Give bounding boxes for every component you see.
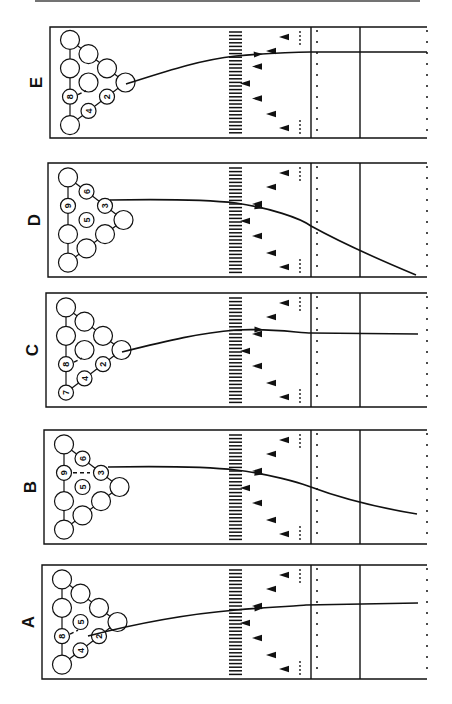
approach-dot — [316, 362, 318, 364]
approach-dot — [316, 30, 318, 32]
dot — [299, 263, 301, 265]
target-arrow-icon — [266, 184, 276, 190]
approach-dot — [316, 351, 318, 353]
approach-dot — [316, 340, 318, 342]
dot — [299, 393, 301, 395]
target-arrow-icon — [252, 635, 262, 641]
target-arrow-icon — [266, 380, 276, 386]
approach-dot — [426, 656, 428, 658]
approach-dot — [316, 296, 318, 298]
approach-dot — [426, 521, 428, 523]
approach-dot — [316, 433, 318, 435]
dot — [299, 401, 301, 403]
approach-dot — [316, 221, 318, 223]
pin-number: 3 — [96, 470, 106, 475]
target-arrow-icon — [266, 314, 276, 320]
panel-B: B3569 — [21, 430, 428, 544]
dot — [299, 581, 301, 583]
approach-dot — [316, 118, 318, 120]
pin-10 — [61, 30, 80, 49]
target-arrow-icon — [252, 500, 262, 506]
panel-label: A — [19, 616, 38, 628]
approach-dot — [426, 455, 428, 457]
approach-dot — [426, 85, 428, 87]
dot — [299, 665, 301, 667]
approach-dot — [426, 118, 428, 120]
approach-dot — [426, 107, 428, 109]
dot — [299, 179, 301, 181]
approach-dot — [426, 340, 428, 342]
approach-dot — [316, 532, 318, 534]
pin-5 — [79, 73, 98, 92]
approach-dot — [316, 373, 318, 375]
target-arrow-icon — [252, 95, 262, 101]
pin-3 — [98, 59, 117, 78]
pin-8 — [55, 492, 74, 511]
pin-9 — [57, 326, 76, 345]
approach-dot — [316, 634, 318, 636]
approach-dot — [316, 177, 318, 179]
target-arrow-icon — [279, 170, 289, 176]
pin-7 — [59, 253, 78, 272]
approach-dot — [426, 667, 428, 669]
approach-dot — [426, 188, 428, 190]
approach-dot — [316, 590, 318, 592]
pin-number: 3 — [100, 203, 110, 208]
approach-dot — [316, 510, 318, 512]
pin-number: 5 — [82, 217, 92, 222]
dot — [299, 530, 301, 532]
approach-dot — [316, 199, 318, 201]
approach-dot — [426, 395, 428, 397]
approach-dot — [426, 243, 428, 245]
approach-dot — [426, 601, 428, 603]
approach-dot — [426, 433, 428, 435]
approach-dot — [426, 199, 428, 201]
pin-number: 9 — [63, 203, 73, 208]
dot — [299, 271, 301, 273]
approach-dot — [316, 85, 318, 87]
pin-10 — [59, 168, 78, 187]
lane-outline — [48, 163, 427, 277]
ball-path — [88, 603, 418, 636]
panel-label: B — [21, 481, 40, 493]
approach-dot — [316, 612, 318, 614]
target-arrow-icon — [252, 363, 262, 369]
approach-dot — [316, 318, 318, 320]
approach-dot — [316, 63, 318, 65]
dot — [299, 132, 301, 134]
panel-A: A2458 — [19, 565, 428, 679]
pin-1 — [110, 478, 129, 497]
pin-number: 6 — [82, 189, 92, 194]
dot — [299, 573, 301, 575]
dot — [299, 661, 301, 663]
dot — [299, 397, 301, 399]
approach-dot — [316, 188, 318, 190]
approach-dot — [316, 623, 318, 625]
dot — [299, 120, 301, 122]
approach-dot — [316, 210, 318, 212]
approach-dot — [316, 41, 318, 43]
dot — [299, 446, 301, 448]
approach-dot — [316, 307, 318, 309]
target-arrow-icon — [252, 233, 262, 239]
approach-dot — [316, 166, 318, 168]
approach-dot — [316, 232, 318, 234]
ball-path — [122, 330, 418, 352]
approach-dot — [426, 568, 428, 570]
pin-number: 8 — [65, 94, 75, 99]
pin-7 — [61, 116, 80, 135]
approach-dot — [426, 623, 428, 625]
pin-9 — [53, 598, 72, 617]
approach-dot — [426, 254, 428, 256]
dot — [299, 128, 301, 130]
dot — [299, 526, 301, 528]
dot — [299, 167, 301, 169]
approach-dot — [316, 568, 318, 570]
approach-dot — [426, 232, 428, 234]
approach-dot — [426, 74, 428, 76]
lane-outline — [44, 430, 427, 544]
pin-6 — [75, 312, 94, 331]
pin-7 — [55, 520, 74, 539]
pin-10 — [55, 435, 74, 454]
approach-dot — [426, 265, 428, 267]
